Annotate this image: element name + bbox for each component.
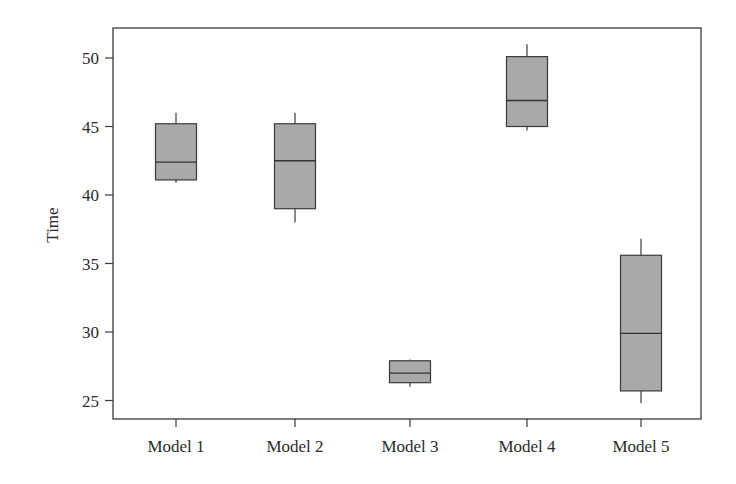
- x-tick-label: Model 4: [498, 437, 556, 456]
- x-tick-label: Model 5: [612, 437, 669, 456]
- iqr-box: [507, 57, 548, 127]
- y-tick-label: 50: [82, 49, 99, 68]
- x-tick-label: Model 2: [266, 437, 323, 456]
- y-axis: 253035404550: [82, 49, 113, 411]
- y-axis-label: Time: [43, 207, 62, 242]
- y-tick-label: 45: [82, 118, 99, 137]
- iqr-box: [156, 124, 197, 180]
- iqr-box: [621, 255, 662, 391]
- box-4: [507, 44, 548, 130]
- iqr-box: [390, 361, 431, 383]
- x-tick-label: Model 1: [147, 437, 204, 456]
- x-tick-label: Model 3: [381, 437, 438, 456]
- box-plot-chart: 253035404550 Model 1Model 2Model 3Model …: [0, 0, 736, 484]
- box-series: [156, 44, 662, 403]
- box-3: [390, 359, 431, 386]
- x-axis: Model 1Model 2Model 3Model 4Model 5: [147, 419, 669, 456]
- box-5: [621, 239, 662, 403]
- y-tick-label: 25: [82, 392, 99, 411]
- iqr-box: [275, 124, 316, 209]
- box-1: [156, 113, 197, 183]
- y-tick-label: 30: [82, 323, 99, 342]
- y-tick-label: 40: [82, 186, 99, 205]
- y-tick-label: 35: [82, 255, 99, 274]
- box-2: [275, 113, 316, 223]
